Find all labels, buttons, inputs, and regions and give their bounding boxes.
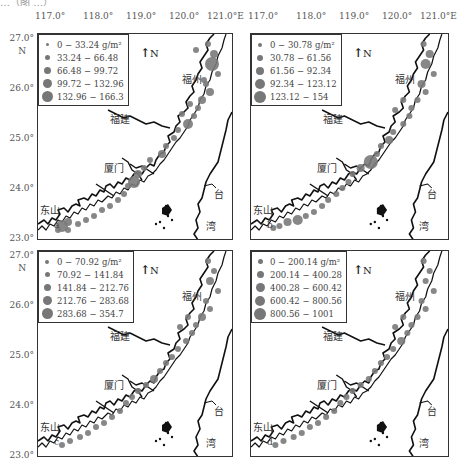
bubble-size-icon [42,91,53,102]
place-label-xiamen: 厦门 [104,377,124,392]
station-marker [345,179,351,185]
station-marker [418,80,426,88]
place-label-xiamen: 厦门 [317,160,337,175]
station-marker [414,97,420,103]
station-marker [207,306,213,312]
place-label-xiamen: 厦门 [317,377,337,392]
station-marker [331,408,337,414]
legend-range-label: 92.34 − 123.12 [270,79,337,89]
station-marker [337,400,343,406]
station-marker [59,442,65,448]
station-marker [349,388,355,394]
bubble-size-icon [255,79,265,89]
penghu-islands [377,421,387,433]
legend-range-label: 30.78 − 61.56 [270,53,331,63]
island-dot [378,444,380,446]
island-dot [159,438,161,440]
longitude-label: 121.0°E [207,11,244,21]
legend-row: 400.28 − 600.42 [255,281,342,294]
station-marker [203,298,209,304]
station-marker [211,268,217,274]
bubble-size-icon [256,283,265,292]
station-marker [183,119,193,129]
station-marker [206,277,214,285]
island-dot [386,219,388,221]
station-marker [385,136,393,144]
place-label-dongshan: 东山 [40,202,60,217]
station-marker [83,217,89,223]
station-marker [400,97,406,103]
place-label-dongshan: 东山 [40,419,60,434]
station-marker [378,360,384,366]
station-marker [129,394,135,400]
bubble-size-icon [254,308,266,320]
legend-row: 70.92 − 141.84 [42,268,129,281]
station-marker [175,346,181,352]
longitude-label: 118.0° [296,11,326,21]
longitude-label: 117.0° [248,11,278,21]
station-marker [427,268,433,274]
longitude-label: 120.0° [382,11,412,21]
longitude-label: 119.0° [126,11,156,21]
legend-symbol [42,260,55,264]
station-marker [75,221,81,227]
bubble-size-icon [257,271,264,278]
legend-box: 0 − 200.14 g/m²200.14 − 400.28400.28 − 6… [251,251,347,323]
latitude-label: 26.0° [4,83,34,93]
legend-row: 66.48 − 99.72 [42,64,124,77]
station-marker [272,442,278,448]
bubble-size-icon [45,55,50,60]
station-marker [163,360,169,366]
latitude-label: 25.0° [4,350,34,360]
station-marker [65,227,71,233]
station-marker [374,151,380,157]
legend-symbol [42,79,55,88]
island-dot [171,219,173,221]
panel-label: b [267,220,273,230]
station-marker [276,223,282,229]
legend-row: 0 − 30.78 g/m² [255,38,337,51]
island-dot [171,436,173,438]
legend-symbol [255,283,268,292]
station-marker [117,408,123,414]
latitude-label: 23.0° [4,233,34,243]
legend-row: 600.42 − 800.56 [255,294,342,307]
longitude-label: 120.0° [169,11,199,21]
north-label: N [150,265,159,276]
station-marker [414,314,420,320]
bubble-size-icon [255,296,265,306]
station-marker [431,71,437,77]
legend-row: 30.78 − 61.56 [255,51,337,64]
place-label-wan: 湾 [206,435,216,450]
station-marker [215,71,221,77]
north-arrow-icon: ↑N [140,263,159,277]
station-marker [91,213,97,219]
station-marker [357,164,365,172]
station-marker [150,375,158,383]
station-marker [67,438,73,444]
legend-symbol [42,43,55,46]
bubble-size-icon [43,296,52,305]
station-marker [293,215,303,225]
station-marker [195,105,201,111]
station-marker [339,185,345,191]
place-label-xiamen: 厦门 [104,160,124,175]
station-marker [193,322,199,328]
legend-range-label: 33.24 − 66.48 [57,53,118,63]
legend-box: 0 − 33.24 g/m²33.24 − 66.4866.48 − 99.72… [38,34,129,106]
station-marker [423,278,429,284]
station-marker [143,382,149,388]
legend-range-label: 0 − 30.78 g/m² [270,40,335,50]
legend-row: 123.12 − 154 [255,90,337,103]
longitude-label: 121.0°E [420,11,457,21]
map-panel-d: 0 − 200.14 g/m²200.14 − 400.28400.28 − 6… [250,250,449,457]
latitude-label: 27.0° [4,33,34,43]
legend-row: 200.14 − 400.28 [255,268,342,281]
north-label: N [363,265,372,276]
legend-row: 800.56 − 1001 [255,307,342,320]
place-label-fuzhou: 福州 [182,288,202,303]
island-dot [370,223,372,225]
legend-symbol [42,272,55,277]
station-marker [349,171,355,177]
place-label-tai: 台 [427,186,437,201]
